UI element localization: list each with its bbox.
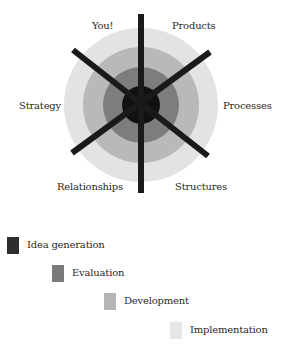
legend-swatch	[104, 293, 116, 310]
legend-swatch	[52, 265, 64, 282]
label-structures: Structures	[175, 181, 227, 192]
concentric-spoke-diagram: You! Products Strategy Processes Relatio…	[0, 0, 283, 200]
legend-label: Idea generation	[27, 239, 105, 250]
label-products: Products	[172, 20, 216, 31]
legend-label: Development	[124, 295, 189, 306]
label-relationships: Relationships	[57, 181, 123, 192]
label-you: You!	[92, 20, 113, 31]
legend-swatch	[170, 322, 182, 339]
legend-swatch	[7, 237, 19, 254]
legend-label: Evaluation	[72, 267, 124, 278]
label-strategy: Strategy	[19, 100, 61, 111]
legend-label: Implementation	[190, 324, 268, 335]
label-processes: Processes	[223, 100, 272, 111]
